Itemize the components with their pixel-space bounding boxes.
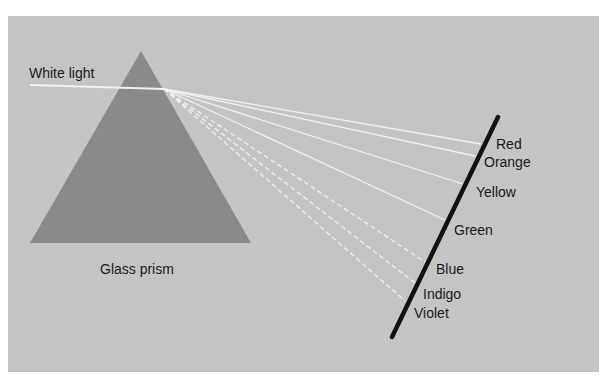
label-blue: Blue [436, 262, 464, 276]
label-indigo: Indigo [423, 287, 461, 301]
label-yellow: Yellow [476, 185, 516, 199]
label-green: Green [454, 223, 493, 237]
ray-orange [164, 89, 475, 156]
white-light-label: White light [29, 66, 94, 80]
ray-red [164, 89, 481, 144]
glass-prism-label: Glass prism [100, 262, 174, 276]
label-violet: Violet [414, 306, 449, 320]
label-orange: Orange [484, 155, 531, 169]
label-red: Red [496, 137, 522, 151]
